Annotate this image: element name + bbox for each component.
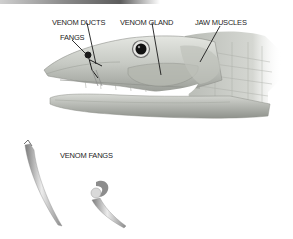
label-venom-gland: VENOM GLAND	[120, 19, 173, 27]
label-jaw-muscles: JAW MUSCLES	[195, 19, 247, 27]
label-venom-ducts: VENOM DUCTS	[52, 19, 105, 27]
venom-fang-large	[24, 140, 62, 226]
lower-jaw	[50, 94, 270, 118]
eye	[133, 41, 150, 58]
label-fangs: FANGS	[60, 34, 84, 42]
label-venom-fangs: VENOM FANGS	[60, 152, 113, 160]
venom-fang-small	[91, 181, 126, 228]
snake-head-illustration	[0, 0, 293, 239]
